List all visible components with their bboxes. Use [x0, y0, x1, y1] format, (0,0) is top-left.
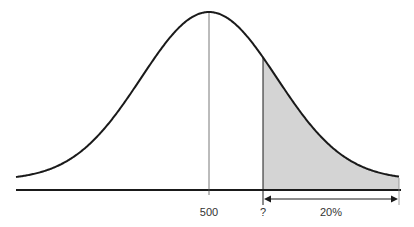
- shaded-tail-area: [263, 57, 399, 190]
- arrow-right-head-icon: [391, 196, 398, 203]
- normal-distribution-chart: 500 ? 20%: [0, 0, 414, 227]
- arrow-left-head-icon: [264, 196, 271, 203]
- normal-curve: [16, 12, 399, 177]
- cutoff-label: ?: [260, 206, 266, 218]
- tail-percent-label: 20%: [320, 206, 342, 218]
- mean-label: 500: [200, 206, 218, 218]
